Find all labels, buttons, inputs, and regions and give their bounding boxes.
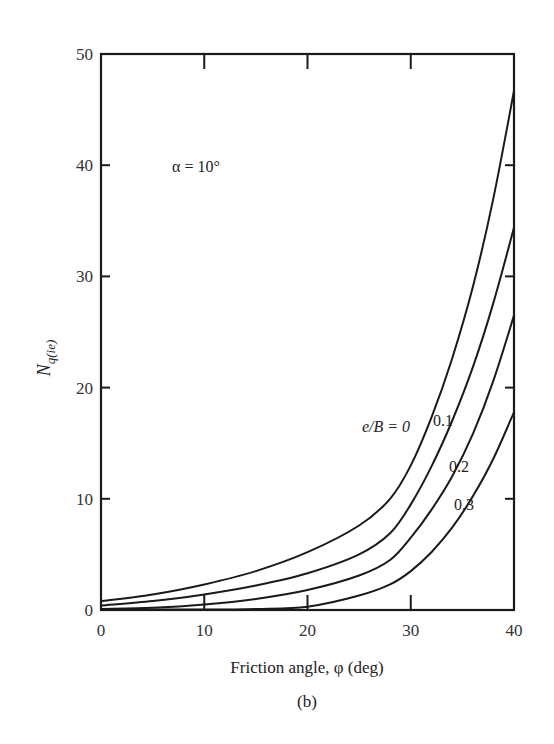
x-tick-label: 40 <box>506 621 523 640</box>
y-axis-title: Nq(ie) <box>34 340 58 378</box>
x-tick-label: 0 <box>97 621 106 640</box>
curve-label-0: e/B = 0 <box>362 418 410 435</box>
y-axis-title-sub: q(ie) <box>43 340 58 365</box>
chart: 01020304001020304050 α = 10° e/B = 0 0.1… <box>0 0 554 744</box>
curve-eB-0 <box>101 91 514 601</box>
x-axis-title: Friction angle, φ (deg) <box>230 658 383 677</box>
tick-labels: 01020304001020304050 <box>76 45 523 640</box>
annotation-alpha: α = 10° <box>172 158 220 175</box>
x-tick-label: 20 <box>299 621 316 640</box>
curve-label-0.1: 0.1 <box>433 412 453 429</box>
curve-label-0.2: 0.2 <box>449 458 469 475</box>
y-axis-title-main: N <box>34 363 54 377</box>
curve-label-0.3: 0.3 <box>454 496 474 513</box>
y-tick-label: 10 <box>76 490 93 509</box>
x-tick-label: 30 <box>402 621 419 640</box>
curves <box>101 91 514 610</box>
panel-label: (b) <box>297 692 317 711</box>
x-tick-label: 10 <box>196 621 213 640</box>
y-tick-label: 30 <box>76 267 93 286</box>
y-tick-label: 40 <box>76 156 93 175</box>
y-tick-label: 20 <box>76 379 93 398</box>
curve-eB-0.3 <box>101 412 514 609</box>
y-tick-label: 0 <box>85 601 94 620</box>
curve-label-0-text: e/B = 0 <box>362 418 410 435</box>
y-tick-label: 50 <box>76 45 93 64</box>
